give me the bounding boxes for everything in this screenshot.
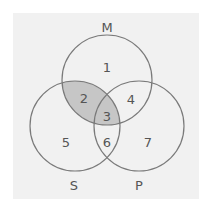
set-label-p: P — [135, 178, 143, 193]
set-circle-p — [94, 81, 184, 171]
region-label-4: 4 — [127, 92, 135, 107]
region-label-6: 6 — [103, 135, 111, 150]
set-label-s: S — [70, 178, 78, 193]
venn-diagram: M S P 1 2 3 4 5 6 7 — [0, 0, 206, 206]
region-label-5: 5 — [62, 135, 70, 150]
region-label-7: 7 — [144, 135, 152, 150]
region-label-3: 3 — [103, 109, 111, 124]
set-label-m: M — [101, 20, 112, 35]
region-label-1: 1 — [103, 60, 111, 75]
region-label-2: 2 — [80, 91, 88, 106]
